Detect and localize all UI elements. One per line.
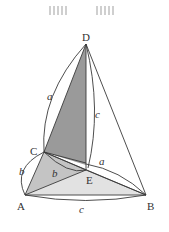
- tetrahedron-diagram: D C E A B a c b b a c: [0, 0, 169, 232]
- face-DCE: [44, 44, 86, 165]
- label-D: D: [82, 31, 90, 43]
- label-c-right: c: [95, 108, 100, 120]
- label-b-inner: b: [52, 167, 58, 179]
- label-c-bottom: c: [79, 203, 84, 215]
- label-C: C: [30, 145, 37, 157]
- label-B: B: [147, 200, 154, 212]
- label-a-left: a: [47, 90, 53, 102]
- label-A: A: [17, 200, 25, 212]
- watermark-marks: [49, 6, 114, 15]
- arc-c-bottom: [25, 195, 146, 201]
- label-E: E: [86, 174, 93, 186]
- label-b-left: b: [19, 165, 25, 177]
- label-a-inner: a: [99, 155, 105, 167]
